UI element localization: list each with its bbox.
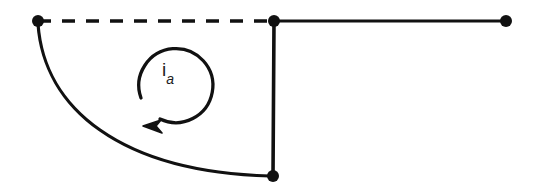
- vertical-wire: [273, 21, 274, 176]
- top-junction-node: [268, 15, 280, 27]
- curved-branch-wire: [38, 24, 270, 176]
- counterclockwise-current-arrow: [139, 49, 213, 133]
- circuit-svg-canvas: [0, 0, 533, 188]
- current-arrow-head: [143, 120, 162, 133]
- current-subscript: a: [166, 71, 174, 87]
- current-arrow-arc: [139, 49, 213, 123]
- current-label: ia: [162, 60, 174, 83]
- circuit-diagram: ia: [0, 0, 533, 188]
- top-left-node: [32, 15, 44, 27]
- top-right-node: [500, 15, 512, 27]
- bottom-node: [267, 170, 279, 182]
